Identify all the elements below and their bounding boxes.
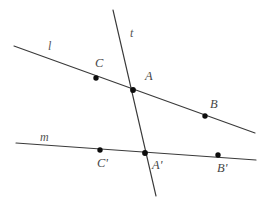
point-b-prime xyxy=(215,152,220,157)
point-a xyxy=(130,87,136,93)
geometry-diagram: l m t C A B C' A' B' xyxy=(0,0,267,203)
label-line-m: m xyxy=(40,131,49,143)
label-point-a-prime: A' xyxy=(152,159,162,172)
label-point-a: A xyxy=(145,70,153,83)
point-c xyxy=(93,75,98,80)
label-line-t: t xyxy=(130,27,133,39)
label-point-c: C xyxy=(95,57,103,70)
line-t xyxy=(113,10,156,196)
point-a-prime xyxy=(142,150,148,156)
label-point-c-prime: C' xyxy=(97,157,108,170)
point-c-prime xyxy=(97,147,102,152)
point-b xyxy=(202,113,207,118)
label-point-b-prime: B' xyxy=(217,162,227,175)
line-m xyxy=(16,143,256,160)
label-line-l: l xyxy=(48,40,51,52)
label-point-b: B xyxy=(210,98,218,111)
